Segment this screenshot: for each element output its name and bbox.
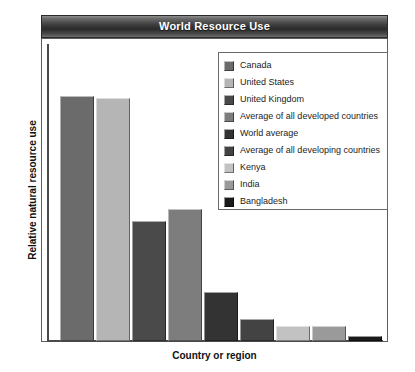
legend-swatch-icon xyxy=(224,180,234,190)
bar-average-of-all-developing-countries xyxy=(240,319,274,341)
legend-item-label: Average of all developed countries xyxy=(240,112,378,121)
bar-world-average xyxy=(204,292,238,341)
legend-item: India xyxy=(224,176,382,193)
legend-item-label: Bangladesh xyxy=(240,197,288,206)
chart-figure: World Resource Use CanadaUnited StatesUn… xyxy=(0,0,415,372)
legend-item: Kenya xyxy=(224,159,382,176)
legend-swatch-icon xyxy=(224,78,234,88)
legend-item-label: World average xyxy=(240,129,298,138)
bar-kenya xyxy=(276,326,310,341)
bar-bangladesh xyxy=(348,336,382,341)
legend-item-label: Canada xyxy=(240,61,272,70)
legend-item-label: India xyxy=(240,180,260,189)
legend-item: Bangladesh xyxy=(224,193,382,210)
bar-india xyxy=(312,326,346,341)
legend-item-label: United Kingdom xyxy=(240,95,304,104)
legend-swatch-icon xyxy=(224,61,234,71)
legend-swatch-icon xyxy=(224,146,234,156)
legend-item: Average of all developing countries xyxy=(224,142,382,159)
bar-canada xyxy=(60,96,94,341)
x-axis-label: Country or region xyxy=(41,350,388,361)
legend-item: Canada xyxy=(224,57,382,74)
legend-item-label: Kenya xyxy=(240,163,266,172)
bar-united-kingdom xyxy=(132,221,166,341)
legend-item: Average of all developed countries xyxy=(224,108,382,125)
legend-item-label: Average of all developing countries xyxy=(240,146,380,155)
legend-swatch-icon xyxy=(224,197,234,207)
legend-swatch-icon xyxy=(224,112,234,122)
bar-united-states xyxy=(96,98,130,341)
y-axis-label: Relative natural resource use xyxy=(22,38,42,342)
bar-average-of-all-developed-countries xyxy=(168,209,202,341)
legend-item: United Kingdom xyxy=(224,91,382,108)
legend-item: World average xyxy=(224,125,382,142)
legend-swatch-icon xyxy=(224,95,234,105)
legend-item: United States xyxy=(224,74,382,91)
chart-legend: CanadaUnited StatesUnited KingdomAverage… xyxy=(218,52,388,210)
legend-item-label: United States xyxy=(240,78,294,87)
legend-swatch-icon xyxy=(224,129,234,139)
legend-swatch-icon xyxy=(224,163,234,173)
